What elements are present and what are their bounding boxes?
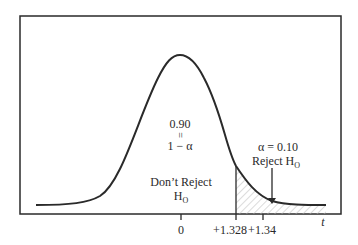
probability-label: 0.90 [170, 117, 191, 131]
tick-label-1328: +1.328 [213, 223, 247, 237]
rejection-arrow [268, 168, 276, 204]
tick-label-0: 0 [178, 223, 184, 237]
h0-label-center: HO [174, 189, 189, 205]
h0-subscript: O [182, 196, 188, 205]
reject-h0-label: Reject HO [252, 154, 300, 170]
tick-label-134: +1.34 [248, 223, 276, 237]
equals-symbol: = [175, 132, 186, 138]
t-distribution-diagram: 0 +1.328 +1.34 t 0.90 = 1 − α Don’t Reje… [0, 0, 358, 245]
h0-main: H [174, 189, 183, 203]
alpha-label: α = 0.10 [258, 140, 298, 154]
one-minus-alpha-label: 1 − α [167, 139, 193, 153]
reject-main: Reject H [252, 154, 295, 168]
rejection-region-hatch [236, 160, 328, 216]
reject-subscript: O [294, 161, 300, 170]
axis-variable-label: t [321, 215, 325, 229]
dont-reject-label: Don’t Reject [150, 175, 212, 189]
